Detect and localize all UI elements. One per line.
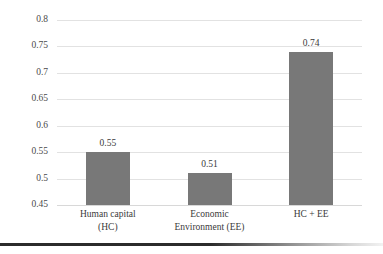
gridline xyxy=(57,20,362,21)
y-axis-tick-label: 0.55 xyxy=(0,147,48,157)
x-axis-category-label-line: HC + EE xyxy=(260,208,362,221)
bar[interactable] xyxy=(86,152,130,205)
plot-area: 0.550.510.74 xyxy=(57,20,362,205)
x-axis-category-label: HC + EE xyxy=(260,208,362,221)
x-axis-category-labels: Human capital(HC)EconomicEnvironment (EE… xyxy=(57,208,362,242)
y-axis-tick-label: 0.8 xyxy=(0,15,48,25)
bar[interactable] xyxy=(188,173,232,205)
y-axis-tick-label: 0.65 xyxy=(0,94,48,104)
y-axis-tick-label: 0.7 xyxy=(0,68,48,78)
y-axis-tick-label: 0.5 xyxy=(0,174,48,184)
page-divider-rule xyxy=(0,243,383,246)
y-axis-tick-label: 0.45 xyxy=(0,200,48,210)
bar-chart-figure: 0.80.750.70.650.60.550.50.45 0.550.510.7… xyxy=(0,0,383,254)
bar-value-label: 0.51 xyxy=(180,160,240,170)
x-axis-category-label-line: (HC) xyxy=(57,221,159,234)
bar-value-label: 0.74 xyxy=(281,39,341,49)
x-axis-category-label-line: Human capital xyxy=(57,208,159,221)
bar-value-label: 0.55 xyxy=(78,139,138,149)
bar[interactable] xyxy=(289,52,333,205)
x-axis-category-label: Human capital(HC) xyxy=(57,208,159,233)
x-axis-category-label: EconomicEnvironment (EE) xyxy=(159,208,261,233)
gridline xyxy=(57,205,362,206)
x-axis-category-label-line: Economic xyxy=(159,208,261,221)
y-axis-tick-labels: 0.80.750.70.650.60.550.50.45 xyxy=(0,20,52,205)
y-axis-tick-label: 0.75 xyxy=(0,41,48,51)
x-axis-category-label-line: Environment (EE) xyxy=(159,221,261,234)
y-axis-tick-label: 0.6 xyxy=(0,121,48,131)
